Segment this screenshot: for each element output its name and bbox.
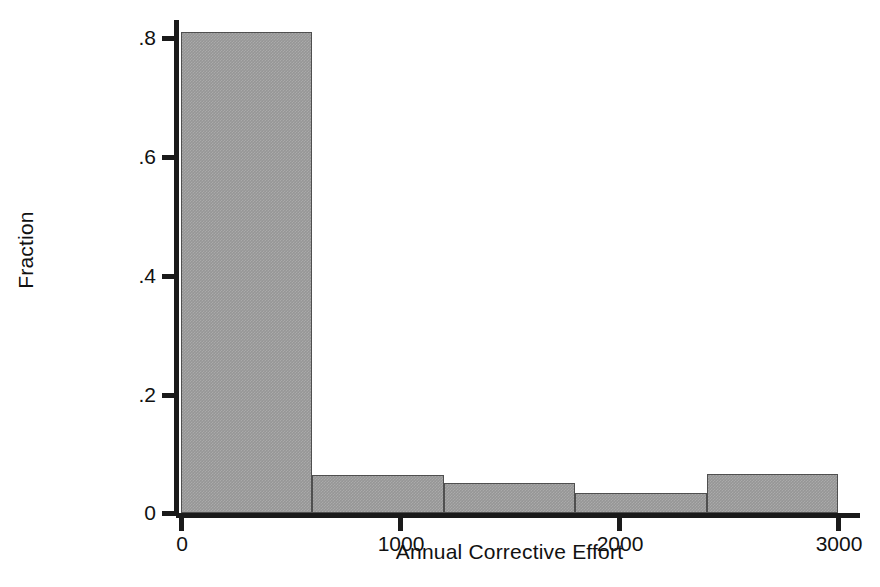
x-axis-title: Annual Corrective Effort xyxy=(181,540,838,564)
histogram-bar xyxy=(181,32,312,513)
histogram-bar xyxy=(707,474,838,513)
histogram-bar xyxy=(444,483,575,513)
histogram-figure: Fraction .8 .6 .4 .2 0 0 1000 2000 3000 … xyxy=(0,0,880,587)
histogram-bar xyxy=(312,475,443,513)
histogram-bar xyxy=(575,493,706,513)
bars-layer xyxy=(0,0,880,587)
